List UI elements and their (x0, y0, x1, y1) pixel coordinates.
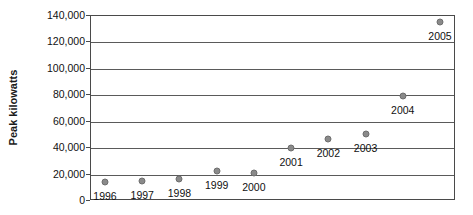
y-axis-tick-label: 120,000 (27, 35, 85, 47)
data-point (399, 92, 406, 99)
data-point (176, 176, 183, 183)
y-axis-tick-mark (86, 200, 90, 201)
data-point (139, 178, 146, 185)
data-point-label: 2003 (354, 142, 377, 154)
data-point-label: 2001 (279, 156, 302, 168)
data-point (288, 145, 295, 152)
y-axis-tick-label: 20,000 (27, 168, 85, 180)
y-axis-tick-label: 0 (27, 194, 85, 206)
gridline (91, 42, 454, 43)
data-point (362, 130, 369, 137)
data-point-label: 2005 (428, 30, 451, 42)
gridline (91, 69, 454, 70)
gridline (91, 148, 454, 149)
gridline (91, 122, 454, 123)
data-point-label: 1996 (93, 190, 116, 202)
y-axis-title: Peak kilowatts (0, 0, 26, 215)
y-axis-tick-label: 100,000 (27, 62, 85, 74)
data-point-label: 1999 (205, 179, 228, 191)
data-point-label: 2004 (391, 104, 414, 116)
gridline (91, 175, 454, 176)
data-point (325, 135, 332, 142)
data-point-label: 1997 (131, 189, 154, 201)
data-point (213, 168, 220, 175)
y-axis-tick-label: 140,000 (27, 9, 85, 21)
plot-area: 1996199719981999200020012002200320042005 (90, 15, 455, 200)
y-axis-tick-label: 40,000 (27, 141, 85, 153)
scatter-chart: Peak kilowatts 140,000120,000100,00080,0… (0, 0, 473, 215)
y-axis-tick-labels: 140,000120,000100,00080,00060,00040,0002… (27, 0, 85, 215)
y-axis-tick-label: 80,000 (27, 88, 85, 100)
data-point-label: 2002 (317, 147, 340, 159)
data-point (250, 170, 257, 177)
data-point-label: 2000 (242, 181, 265, 193)
data-point (102, 178, 109, 185)
data-point-label: 1998 (168, 187, 191, 199)
y-axis-tick-label: 60,000 (27, 115, 85, 127)
data-point (437, 18, 444, 25)
